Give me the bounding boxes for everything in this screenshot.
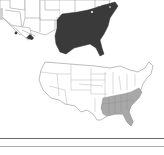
top-us-map [0, 0, 164, 60]
bottom-map-svg [35, 60, 160, 132]
top-map-svg [0, 0, 164, 60]
answer-line-1 [0, 138, 164, 139]
top-marker-dot [15, 32, 18, 35]
answer-line-2 [0, 146, 164, 147]
bottom-us-map [35, 60, 160, 132]
